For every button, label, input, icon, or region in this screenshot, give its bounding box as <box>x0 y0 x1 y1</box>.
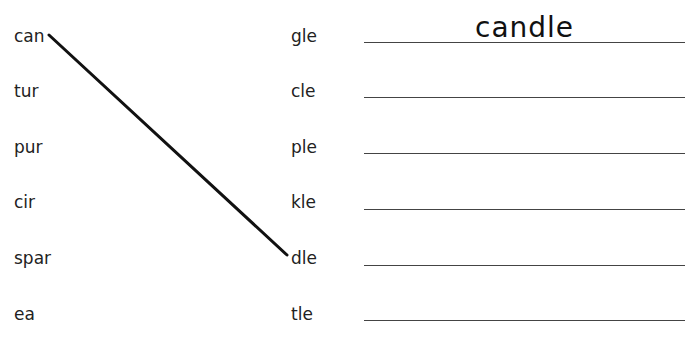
right-part: cle <box>291 81 316 101</box>
answer-line[interactable] <box>364 97 685 98</box>
left-part: ea <box>14 304 35 324</box>
right-part: dle <box>291 248 317 268</box>
right-part: gle <box>291 26 317 46</box>
right-part: kle <box>291 192 316 212</box>
answer-line[interactable] <box>364 320 685 321</box>
left-part: tur <box>14 81 38 101</box>
answer-text: candle <box>475 12 574 44</box>
right-part: ple <box>291 137 317 157</box>
answer-line[interactable] <box>364 153 685 154</box>
right-part: tle <box>291 304 313 324</box>
answer-line[interactable] <box>364 265 685 266</box>
left-part: pur <box>14 137 43 157</box>
connector-line <box>0 0 698 345</box>
left-part: can <box>14 26 45 46</box>
left-part: cir <box>14 192 35 212</box>
answer-line[interactable] <box>364 42 685 43</box>
answer-line[interactable] <box>364 209 685 210</box>
left-part: spar <box>14 248 51 268</box>
